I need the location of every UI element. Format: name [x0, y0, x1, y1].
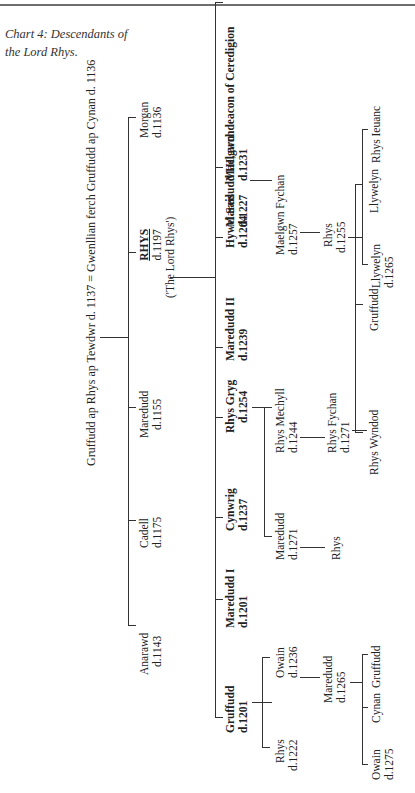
gen2-maredudd-iii-label: Maredudd III, archdeacon of Ceredigiond.…	[224, 27, 250, 227]
gen3-owain-1236: Owaind.1236	[274, 646, 300, 678]
gen5-llywelyn: Llywelyn	[368, 169, 381, 213]
rhys-fychan-children-bar	[355, 185, 356, 433]
gen3-maredudd-1271: Mareduddd.1271	[274, 513, 300, 560]
gen1-maredudd: Mareduddd.1155	[138, 391, 164, 438]
gen4-rhys: Rhys	[330, 536, 343, 560]
gen1-bar	[128, 118, 129, 626]
gen2-rhys-gryg: Rhys Grygd.1254	[224, 380, 250, 433]
gen3-rhys-mechyll: Rhys Mechylld.1244	[274, 388, 300, 453]
genealogy-chart: Gruffudd ap Rhys ap Tewdwr d. 1137 = Gwe…	[0, 0, 415, 793]
gen5-owain-1275: Owaind.1275	[370, 748, 396, 780]
gen5-rhys-wyndod: Rhys Wyndod	[368, 410, 381, 475]
gen1-morgan: Morgand.1136	[138, 102, 164, 138]
gen5-llywelyn-1265: Llywelynd.1265	[370, 244, 396, 288]
gen3-maelgwn-fychan: Maelgwn Fychand.1257	[274, 175, 300, 255]
gen5-gruffudd-a: Gruffudd	[370, 645, 383, 688]
gen2-cynwrig: Cynwrigd.1237	[224, 488, 250, 531]
gen2-maredudd-ii: Maredudd IId.1239	[224, 297, 250, 361]
gen1-rhys-lord: RHYSd.1197('The Lord Rhys')	[138, 217, 177, 273]
gen2-gruffudd: Gruffuddd.1201	[224, 686, 250, 733]
gen5-gruffudd-b: Gruffudd	[368, 288, 381, 331]
gen5-rhys-ieuanc: Rhys Ieuanc	[370, 106, 383, 163]
gen2-maredudd-i: Maredudd Id.1201	[224, 568, 250, 628]
gen1-anarawd: Anarawdd.1143	[138, 633, 164, 675]
gen2-bar	[215, 3, 216, 718]
gen4-rhys-fychan: Rhys Fychand.1271	[326, 393, 352, 453]
gen1-cadell: Cadelld.1175	[138, 517, 164, 548]
rhys-stem	[170, 277, 215, 278]
root-stem	[100, 337, 128, 338]
gen5-cynan: Cynan	[370, 693, 383, 723]
gen4-maredudd-1265: Mareduddd.1265	[322, 656, 348, 703]
root-couple: Gruffudd ap Rhys ap Tewdwr d. 1137 = Gwe…	[85, 60, 98, 466]
gen3-rhys-1222: Rhysd.1222	[274, 739, 300, 771]
gen4-rhys-1255: Rhysd.1255	[322, 221, 348, 253]
